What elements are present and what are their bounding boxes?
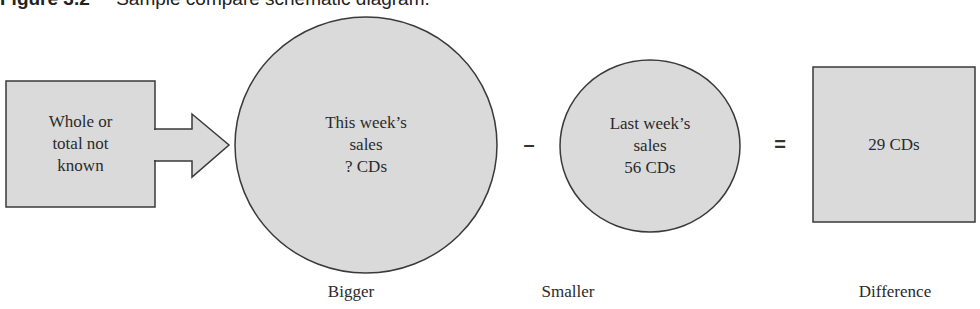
difference-text: 29 CDs <box>813 67 975 222</box>
whole-line-2: total not <box>52 133 108 155</box>
equals-operator: = <box>766 133 794 156</box>
smaller-text: Last week’s sales 56 CDs <box>560 80 740 212</box>
smaller-line-3: 56 CDs <box>624 157 675 179</box>
bigger-caption: Bigger <box>311 282 391 302</box>
whole-unknown-text: Whole or total not known <box>6 81 155 207</box>
bigger-text: This week’s sales ? CDs <box>235 80 497 210</box>
right-arrow-icon <box>155 114 229 177</box>
smaller-caption: Smaller <box>528 282 608 302</box>
difference-line-1: 29 CDs <box>868 134 919 156</box>
minus-operator: – <box>515 133 543 156</box>
bigger-line-2: sales <box>349 134 382 156</box>
whole-line-1: Whole or <box>49 111 113 133</box>
whole-line-3: known <box>57 155 103 177</box>
smaller-line-1: Last week’s <box>610 113 691 135</box>
bigger-line-1: This week’s <box>325 112 407 134</box>
bigger-line-3: ? CDs <box>345 156 387 178</box>
smaller-line-2: sales <box>633 135 666 157</box>
difference-caption: Difference <box>845 282 945 302</box>
